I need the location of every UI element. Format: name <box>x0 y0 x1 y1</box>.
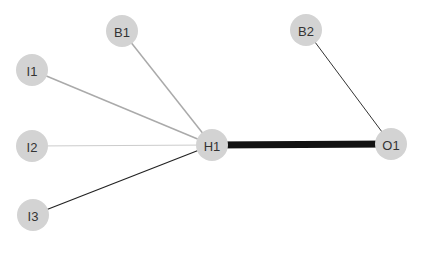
edge-b2-o1 <box>306 30 391 144</box>
node-i3: I3 <box>17 199 49 231</box>
node-label: H1 <box>204 139 221 154</box>
node-h1: H1 <box>196 129 228 161</box>
node-i1: I1 <box>16 54 48 86</box>
node-label: B1 <box>114 25 130 40</box>
network-diagram: B1I1I2I3H1B2O1 <box>0 0 421 253</box>
edge-i3-h1 <box>33 145 212 215</box>
node-o1: O1 <box>375 128 407 160</box>
node-b2: B2 <box>290 14 322 46</box>
node-label: I1 <box>27 64 38 79</box>
node-label: I3 <box>28 209 39 224</box>
edge-b1-h1 <box>122 31 212 145</box>
edge-i1-h1 <box>32 70 212 145</box>
node-b1: B1 <box>106 15 138 47</box>
edges-group <box>32 30 391 215</box>
node-label: O1 <box>382 138 399 153</box>
edge-h1-o1 <box>212 144 391 145</box>
node-label: I2 <box>27 140 38 155</box>
node-label: B2 <box>298 24 314 39</box>
edge-i2-h1 <box>32 145 212 146</box>
node-i2: I2 <box>16 130 48 162</box>
